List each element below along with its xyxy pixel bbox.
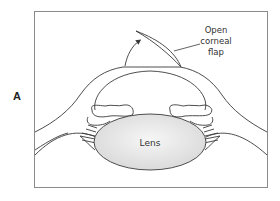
callout-line-2: corneal [200, 36, 231, 46]
flap-lift-arrow [125, 41, 139, 66]
callout-line-3: flap [208, 47, 224, 57]
inner-cornea [95, 71, 206, 110]
callout-line-1: Open [205, 25, 228, 35]
right-ciliary-curve [206, 133, 267, 155]
lens-label: Lens [140, 138, 161, 148]
corneal-flap [136, 31, 181, 67]
callout-leader-line [174, 44, 200, 51]
left-iris [92, 105, 134, 117]
eye-cross-section-diagram: Lens Open corneal flap [0, 0, 280, 201]
sclera-right-outer [180, 67, 267, 132]
